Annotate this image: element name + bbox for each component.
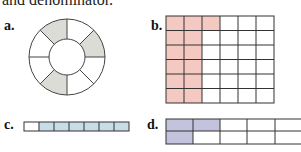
figure-c-label: c. — [4, 117, 14, 133]
figure-d-grid — [165, 118, 301, 148]
figure-b-grid — [165, 15, 280, 105]
figure-d-label: d. — [147, 117, 158, 133]
figure-a-label: a. — [4, 18, 15, 34]
figure-c-strip — [23, 121, 131, 133]
intro-text: and denominator. — [2, 0, 113, 9]
figure-b-label: b. — [151, 18, 162, 34]
figure-a-ring — [22, 12, 112, 102]
